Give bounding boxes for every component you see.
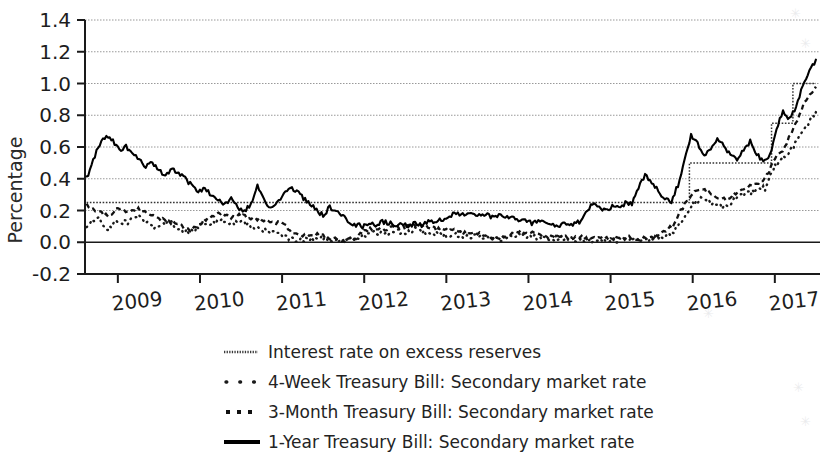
legend-item: 4-Week Treasury Bill: Secondary market r… [226, 372, 646, 392]
legend-item: 1-Year Treasury Bill: Secondary market r… [224, 432, 634, 452]
x-tick-label: 2017 [768, 286, 821, 315]
x-tick-label: 2009 [111, 286, 164, 315]
legend-label: 4-Week Treasury Bill: Secondary market r… [268, 372, 646, 392]
y-tick-label: 1.4 [39, 8, 71, 32]
y-tick-label: 1.2 [39, 40, 71, 64]
gridlines [85, 20, 820, 242]
chart-canvas: Percentage -0.20.00.20.40.60.81.01.21.4 … [0, 0, 829, 453]
y-tick-label: 1.0 [39, 72, 71, 96]
legend-label: Interest rate on excess reserves [268, 342, 541, 362]
legend-item: 3-Month Treasury Bill: Secondary market … [226, 402, 654, 422]
chart-figure: Percentage -0.20.00.20.40.60.81.01.21.4 … [0, 0, 829, 453]
y-tick-label: 0.0 [39, 230, 71, 254]
y-tick-label: 0.4 [39, 167, 71, 191]
x-tick-labels: 200920102011201220132014201520162017 [111, 286, 821, 315]
x-tick-label: 2011 [275, 286, 328, 315]
y-axis-title: Percentage [4, 137, 26, 244]
legend-label: 3-Month Treasury Bill: Secondary market … [268, 402, 654, 422]
y-tick-label: 0.8 [39, 103, 71, 127]
y-axis-title-group: Percentage [4, 137, 26, 244]
x-tick-marks [118, 274, 775, 283]
x-tick-label: 2014 [521, 286, 574, 315]
legend-label: 1-Year Treasury Bill: Secondary market r… [268, 432, 634, 452]
y-tick-label: -0.2 [32, 262, 71, 286]
x-tick-label: 2013 [439, 286, 492, 315]
series-line-ioer [87, 84, 816, 203]
x-tick-label: 2015 [603, 286, 656, 315]
series-0 [87, 84, 816, 203]
series-line-4week [87, 112, 816, 243]
y-tick-label: 0.6 [39, 135, 71, 159]
series-1 [87, 112, 816, 243]
legend-item: Interest rate on excess reserves [224, 342, 541, 362]
series-2 [87, 87, 816, 243]
y-tick-marks [77, 20, 85, 274]
x-tick-label: 2012 [357, 286, 410, 315]
y-tick-labels: -0.20.00.20.40.60.81.01.21.4 [32, 8, 71, 286]
x-tick-label: 2010 [193, 286, 246, 315]
series-line-3month [87, 87, 816, 243]
y-tick-label: 0.2 [39, 199, 71, 223]
chart-legend: Interest rate on excess reserves4-Week T… [224, 342, 654, 452]
data-series-layer [87, 60, 816, 243]
x-tick-label: 2016 [685, 286, 738, 315]
